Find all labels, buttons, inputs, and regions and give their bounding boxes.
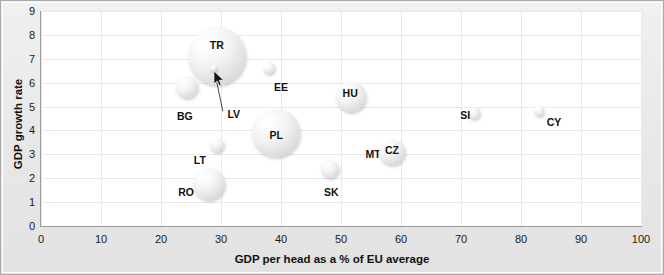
gridline-horizontal — [41, 154, 641, 155]
gridline-horizontal — [41, 130, 641, 131]
gridline-vertical — [41, 11, 42, 226]
y-axis-tick-label: 7 — [5, 53, 35, 65]
bubble-sk[interactable] — [321, 160, 339, 178]
y-axis-title: GDP growth rate — [12, 64, 24, 184]
gridline-vertical — [101, 11, 102, 226]
y-axis-tick-label: 8 — [5, 29, 35, 41]
bubble-chart-screenshot: TRBGLVEEHUMTSICYPLCZLTSKRO 0123456789 01… — [0, 0, 664, 275]
plot-area: TRBGLVEEHUMTSICYPLCZLTSKRO — [41, 11, 641, 226]
mouse-pointer-icon — [214, 71, 225, 86]
x-axis-tick-label: 90 — [575, 233, 587, 245]
bubble-bg[interactable] — [176, 76, 198, 98]
x-axis-line — [40, 226, 642, 227]
bubble-label-lt: LT — [194, 154, 206, 166]
bubble-label-sk: SK — [324, 186, 339, 198]
bubble-label-cy: CY — [547, 116, 562, 128]
bubble-label-hu: HU — [343, 87, 358, 99]
x-axis-tick-label: 70 — [455, 233, 467, 245]
bubble-label-si: SI — [460, 109, 470, 121]
gridline-vertical — [161, 11, 162, 226]
gridline-horizontal — [41, 202, 641, 203]
x-axis-tick-label: 60 — [395, 233, 407, 245]
gridline-vertical — [401, 11, 402, 226]
gridline-horizontal — [41, 178, 641, 179]
gridline-horizontal — [41, 83, 641, 84]
y-axis-line — [40, 11, 41, 227]
bubble-label-bg: BG — [177, 110, 193, 122]
bubble-label-tr: TR — [210, 39, 224, 51]
bubble-label-cz: CZ — [385, 144, 399, 156]
bubble-cy[interactable] — [534, 106, 544, 116]
gridline-horizontal — [41, 35, 641, 36]
x-axis-tick-label: 100 — [632, 233, 650, 245]
x-axis-tick-label: 0 — [38, 233, 44, 245]
gridline-vertical — [341, 11, 342, 226]
x-axis-tick-label: 30 — [215, 233, 227, 245]
gridline-vertical — [641, 11, 642, 226]
gridline-vertical — [521, 11, 522, 226]
gridline-vertical — [581, 11, 582, 226]
bubble-lt[interactable] — [210, 138, 224, 152]
x-axis-tick-label: 20 — [155, 233, 167, 245]
x-axis-tick-label: 50 — [335, 233, 347, 245]
gridline-horizontal — [41, 11, 641, 12]
bubble-label-ro: RO — [178, 186, 194, 198]
x-axis-tick-label: 80 — [515, 233, 527, 245]
bubble-label-pl: PL — [269, 129, 282, 141]
y-axis-tick-label: 0 — [5, 220, 35, 232]
x-axis-tick-label: 10 — [95, 233, 107, 245]
x-axis-title: GDP per head as a % of EU average — [1, 253, 663, 265]
y-axis-tick-label: 9 — [5, 5, 35, 17]
gridline-horizontal — [41, 59, 641, 60]
bubble-label-lv: LV — [227, 108, 240, 120]
x-axis-tick-label: 40 — [275, 233, 287, 245]
chart-frame: TRBGLVEEHUMTSICYPLCZLTSKRO 0123456789 01… — [0, 0, 664, 275]
bubble-label-ee: EE — [274, 81, 288, 93]
bubble-ee[interactable] — [263, 62, 275, 74]
y-axis-tick-label: 1 — [5, 196, 35, 208]
bubble-ro[interactable] — [193, 168, 225, 200]
